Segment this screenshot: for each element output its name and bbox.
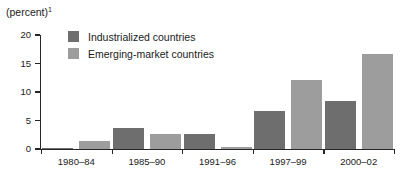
legend-label-industrialized: Industrialized countries <box>88 31 195 43</box>
bar-industrialized-0 <box>42 148 73 149</box>
chart-axis-title-footnote-marker: 1 <box>48 6 52 13</box>
x-axis-tick-label: 1991–96 <box>199 156 236 167</box>
bar-emerging-4 <box>362 54 393 149</box>
bar-emerging-2 <box>221 147 252 149</box>
bar-emerging-3 <box>291 80 322 149</box>
chart-axis-title: (percent)1 <box>6 6 52 18</box>
bar-industrialized-1 <box>113 128 144 149</box>
legend-label-emerging: Emerging-market countries <box>88 48 214 60</box>
legend-swatch-icon-industrialized <box>68 31 79 42</box>
x-axis-tick <box>112 150 113 154</box>
x-axis-tick-label: 1985–90 <box>128 156 165 167</box>
y-axis-tick-label: 5 <box>6 116 31 126</box>
x-axis-tick <box>394 150 395 154</box>
bar-industrialized-3 <box>254 111 285 149</box>
legend-item-emerging: Emerging-market countries <box>68 45 214 62</box>
x-axis-tick <box>182 150 183 154</box>
y-axis-tick-label: 0 <box>6 144 31 154</box>
x-axis-tick-label: 2000–02 <box>340 156 377 167</box>
x-axis-tick <box>323 150 324 154</box>
y-axis-tick-label-text: 15 <box>6 59 31 69</box>
bar-industrialized-4 <box>325 101 356 149</box>
bar-emerging-1 <box>150 134 181 149</box>
y-axis-tick-label: 15 <box>6 59 31 69</box>
y-axis-tick-label-text: 10 <box>6 87 31 97</box>
x-axis-tick <box>253 150 254 154</box>
legend-swatch-icon-emerging <box>68 48 79 59</box>
bar-emerging-0 <box>79 141 110 149</box>
x-axis-tick-label: 1980–84 <box>58 156 95 167</box>
legend-item-industrialized: Industrialized countries <box>68 28 214 45</box>
x-axis-tick-label: 1997–99 <box>270 156 307 167</box>
x-axis-tick <box>41 150 42 154</box>
y-axis-tick-label-text: 5 <box>6 116 31 126</box>
bar-industrialized-2 <box>184 134 215 149</box>
chart-legend: Industrialized countries Emerging-market… <box>68 28 214 62</box>
y-axis-tick-label: 10 <box>6 87 31 97</box>
bar-chart: (percent)1 05101520 1980–841985–901991–9… <box>0 0 401 179</box>
chart-axis-title-text: (percent) <box>6 6 48 18</box>
y-axis-tick-label-text: 20 <box>6 30 31 40</box>
y-axis-tick-label: 20 <box>6 30 31 40</box>
y-axis-tick-label-text: 0 <box>6 144 31 154</box>
